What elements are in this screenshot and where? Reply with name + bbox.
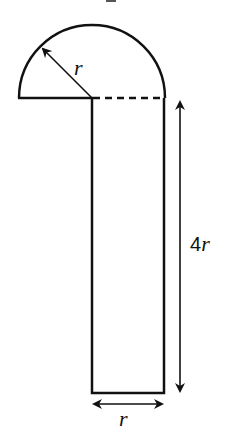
height-label: 4r xyxy=(190,231,210,256)
radius-label: r xyxy=(74,55,83,80)
cropped-text-fragment xyxy=(106,0,116,2)
composite-shape-diagram: r 4r r xyxy=(0,0,228,448)
radius-arrow xyxy=(43,49,92,98)
semicircle-arc xyxy=(19,25,165,98)
width-label: r xyxy=(119,406,128,431)
rectangle xyxy=(92,98,164,393)
